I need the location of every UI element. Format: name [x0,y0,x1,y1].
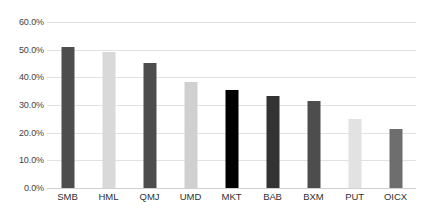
x-tick-label-bxm: BXM [293,190,334,204]
bars-layer [47,22,416,188]
bar-umd[interactable] [184,82,197,188]
y-tick-label: 40.0% [0,72,44,82]
x-tick-label-qmj: QMJ [129,190,170,204]
bar-oicx[interactable] [389,129,402,188]
bar-smb[interactable] [61,47,74,188]
x-tick-label-put: PUT [334,190,375,204]
bar-bab[interactable] [266,96,279,188]
bar-hml[interactable] [102,52,115,188]
y-tick-label: 60.0% [0,17,44,27]
bar-slot [129,22,170,188]
bar-mkt[interactable] [225,90,238,188]
y-tick-label: 20.0% [0,128,44,138]
bar-slot [375,22,416,188]
bar-slot [211,22,252,188]
x-tick-label-umd: UMD [170,190,211,204]
bar-put[interactable] [348,119,361,188]
x-tick-label-hml: HML [88,190,129,204]
x-tick-label-smb: SMB [47,190,88,204]
bar-bxm[interactable] [307,101,320,188]
y-axis-tick-labels: 0.0%10.0%20.0%30.0%40.0%50.0%60.0% [0,22,44,188]
bar-slot [293,22,334,188]
bar-slot [47,22,88,188]
x-tick-label-oicx: OICX [375,190,416,204]
x-tick-label-bab: BAB [252,190,293,204]
bar-slot [334,22,375,188]
bar-slot [170,22,211,188]
bar-qmj[interactable] [143,63,156,188]
x-tick-label-mkt: MKT [211,190,252,204]
bar-chart: 0.0%10.0%20.0%30.0%40.0%50.0%60.0% SMBHM… [0,0,428,218]
bar-slot [88,22,129,188]
y-tick-label: 0.0% [0,183,44,193]
bar-slot [252,22,293,188]
x-axis-category-labels: SMBHMLQMJUMDMKTBABBXMPUTOICX [47,190,416,210]
y-tick-label: 10.0% [0,155,44,165]
y-tick-label: 30.0% [0,100,44,110]
axis-baseline [47,188,416,189]
y-tick-label: 50.0% [0,45,44,55]
